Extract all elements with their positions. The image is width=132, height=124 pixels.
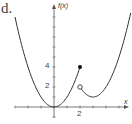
x-tick-label-2: 2 [77, 109, 81, 118]
y-axis-arrow-icon [52, 4, 56, 9]
right-curve [80, 13, 131, 97]
axis-ticks [15, 17, 119, 117]
open-endpoint [78, 85, 82, 89]
x-axis-arrow-icon [124, 105, 129, 109]
y-axis-label: f(x) [58, 2, 68, 9]
closed-endpoint [78, 65, 82, 69]
part-label: d. [1, 0, 12, 17]
y-tick-label-2: 2 [45, 81, 49, 90]
piecewise-function-graph [0, 0, 132, 124]
y-tick-label-4: 4 [45, 61, 49, 70]
x-axis-label: x [124, 98, 128, 105]
